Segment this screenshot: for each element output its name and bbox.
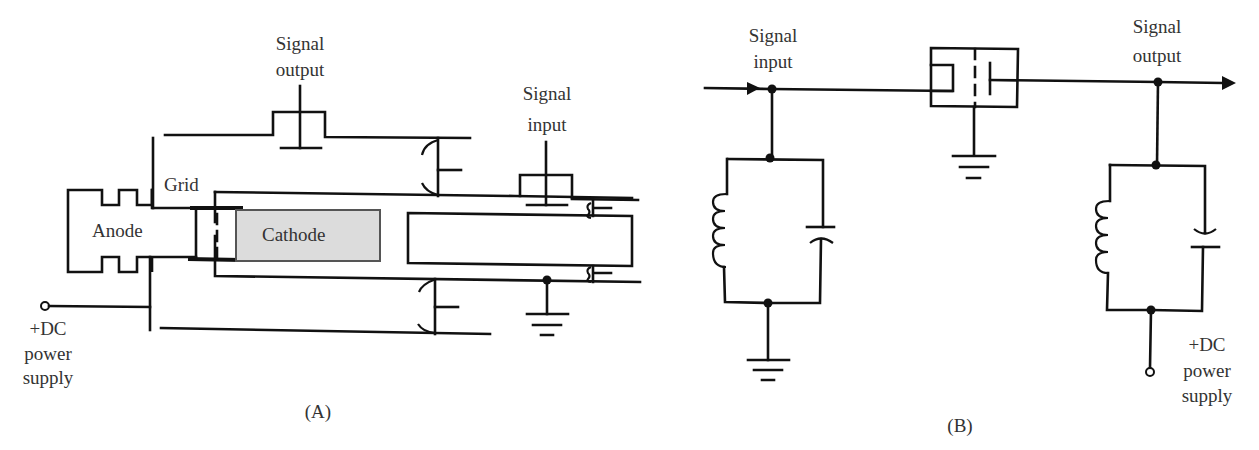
- label-signal-input-b-1: Signal: [749, 25, 798, 46]
- ground-icon-b1: [748, 360, 789, 380]
- panel-b-schematic: [705, 48, 1236, 380]
- terminal-dc-b: [1146, 368, 1154, 376]
- choke-lower-right-arm: [593, 266, 611, 282]
- label-signal-output-a-2: output: [276, 59, 325, 80]
- label-dc-b-3: supply: [1182, 385, 1233, 406]
- cathode-inner-cylinder: [408, 213, 632, 266]
- junction-input-tank-top: [766, 154, 775, 163]
- output-tank-bottom: [1107, 247, 1203, 311]
- diagram-canvas: Signal output Signal input Grid Anode Ca…: [0, 0, 1259, 450]
- outer-cavity-bottom: [161, 328, 490, 334]
- label-dc-a-1: +DC: [29, 318, 66, 339]
- input-line-b: [705, 88, 770, 89]
- choke-upper-right-arm: [593, 200, 611, 216]
- output-tank-lead: [1157, 82, 1158, 165]
- input-arrow-icon: [747, 82, 760, 95]
- line-to-tube: [772, 89, 952, 91]
- label-signal-output-a-1: Signal: [276, 33, 325, 54]
- tuning-arc-upper-bottom: [422, 183, 438, 195]
- label-dc-a-2: power: [24, 343, 72, 364]
- grid-cavity-top: [215, 192, 632, 198]
- label-anode: Anode: [92, 220, 143, 241]
- label-cathode: Cathode: [262, 224, 325, 245]
- tuning-arc-upper-top: [422, 140, 438, 155]
- label-signal-input-a-1: Signal: [523, 83, 572, 104]
- input-tank-top: [728, 159, 823, 227]
- label-dc-a-3: supply: [23, 367, 74, 388]
- dc-lead-a: [49, 306, 150, 307]
- label-dc-b-2: power: [1183, 360, 1231, 381]
- caption-b: (B): [947, 415, 972, 437]
- tuning-arc-lower-top: [419, 279, 436, 292]
- ground-icon-a: [527, 314, 568, 335]
- label-signal-output-b-2: output: [1133, 45, 1182, 66]
- output-tank-top: [1110, 165, 1205, 233]
- output-arrow-icon: [1222, 76, 1236, 90]
- input-inductor-icon: [713, 194, 726, 267]
- label-signal-input-a-2: input: [527, 114, 567, 135]
- caption-a: (A): [305, 401, 331, 423]
- input-line-right: [572, 199, 638, 200]
- label-signal-output-b-1: Signal: [1133, 16, 1182, 37]
- label-signal-input-b-2: input: [753, 51, 793, 72]
- dc-lead-b: [1150, 310, 1151, 368]
- label-dc-b-1: +DC: [1188, 334, 1225, 355]
- ground-icon-b2: [953, 156, 995, 178]
- label-grid: Grid: [164, 174, 199, 195]
- outer-cavity-top: [165, 112, 470, 138]
- choke-lower-right: [587, 267, 591, 282]
- input-tank-bottom: [724, 239, 821, 303]
- triode-cathode: [931, 65, 953, 91]
- output-inductor-icon: [1096, 201, 1109, 273]
- triode-output-line: [990, 80, 1158, 82]
- output-line-b: [1158, 82, 1222, 83]
